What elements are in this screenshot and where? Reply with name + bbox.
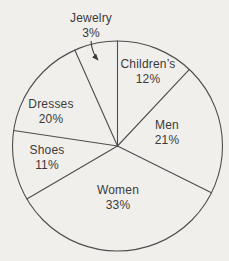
slice-name-label: Shoes	[29, 143, 64, 157]
slice-name-label: Dresses	[28, 97, 73, 111]
slice-pct-label: 3%	[82, 26, 100, 40]
slice-pct-label: 33%	[106, 198, 131, 212]
slice-pct-label: 12%	[136, 72, 161, 86]
slice-name-label: Jewelry	[70, 11, 112, 25]
slice-pct-label: 20%	[39, 112, 64, 126]
slice-pct-label: 21%	[155, 133, 180, 147]
slice-name-label: Men	[155, 118, 179, 132]
pie-chart-svg: Children’s12%Men21%Women33%Shoes11%Dress…	[0, 0, 229, 261]
slice-pct-label: 11%	[35, 158, 59, 172]
slice-name-label: Children’s	[120, 57, 175, 71]
pie-chart-figure: Children’s12%Men21%Women33%Shoes11%Dress…	[0, 0, 229, 261]
slice-boundary-line	[75, 50, 118, 146]
pie-render-root: Children’s12%Men21%Women33%Shoes11%Dress…	[13, 11, 223, 251]
slice-name-label: Women	[97, 183, 139, 197]
